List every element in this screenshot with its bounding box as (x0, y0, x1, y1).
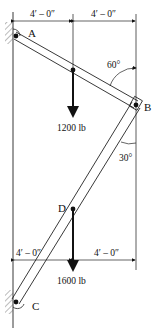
angle-arc-60 (110, 68, 136, 86)
angle-label-60: 60° (107, 60, 121, 70)
wall-hatch-top (5, 22, 13, 44)
member-AB (14, 32, 138, 108)
wall-hatch-bottom (5, 290, 13, 314)
pin-C (13, 300, 24, 309)
point-label-B: B (144, 101, 151, 113)
dim-bottom-right: 4′ – 0″ (94, 248, 119, 258)
angle-arc-30 (121, 142, 136, 144)
wall (5, 12, 13, 328)
point-label-C: C (32, 300, 39, 312)
pin-B (134, 103, 139, 108)
dim-top-left: 4′ – 0″ (30, 9, 55, 19)
angle-label-30: 30° (119, 153, 133, 163)
load-label-1600: 1600 lb (57, 276, 86, 286)
load-label-1200: 1200 lb (57, 123, 86, 133)
point-label-D: D (58, 202, 66, 214)
frame-diagram: 4′ – 0″ 4′ – 0″ 1200 lb 1600 lb 4′ – 0″ … (0, 0, 156, 333)
dim-top-right: 4′ – 0″ (91, 9, 116, 19)
dim-bottom-left: 4′ – 0″ (16, 248, 41, 258)
point-label-A: A (28, 27, 36, 39)
